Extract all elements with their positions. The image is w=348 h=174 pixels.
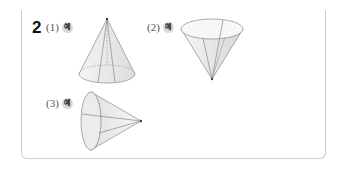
cone-inverted-figure: [179, 16, 247, 84]
item-2-number: (2): [147, 21, 160, 33]
item-3-number: (3): [46, 97, 59, 109]
question-number: 2: [32, 18, 41, 38]
item-1-label: (1) 예: [46, 21, 73, 33]
cone-sideways-figure: [78, 90, 144, 152]
cone-upright-figure: [76, 16, 140, 88]
example-badge: 예: [62, 22, 73, 33]
item-2-label: (2) 예: [147, 21, 174, 33]
example-badge: 예: [62, 98, 73, 109]
item-1-number: (1): [46, 21, 59, 33]
item-3-label: (3) 예: [46, 97, 73, 109]
example-badge: 예: [163, 22, 174, 33]
